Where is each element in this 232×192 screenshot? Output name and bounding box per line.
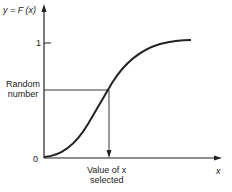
cdf-curve — [44, 40, 191, 157]
y-axis-arrow-icon — [42, 4, 47, 12]
value-selected-label-line2: selected — [87, 175, 126, 185]
value-selected-label: Value of x selected — [87, 165, 126, 185]
y-tick-label-one: 1 — [36, 38, 41, 48]
y-axis-label: y = F (x) — [3, 5, 36, 15]
x-axis-arrow-icon — [214, 156, 222, 161]
random-number-label-line1: Random — [6, 79, 40, 89]
value-selected-label-line1: Value of x — [87, 165, 126, 175]
random-number-label-line2: number — [6, 89, 40, 99]
down-arrow-icon — [107, 150, 112, 158]
random-number-label: Random number — [6, 79, 40, 99]
origin-label: 0 — [33, 154, 38, 164]
x-axis-label: x — [216, 166, 221, 176]
